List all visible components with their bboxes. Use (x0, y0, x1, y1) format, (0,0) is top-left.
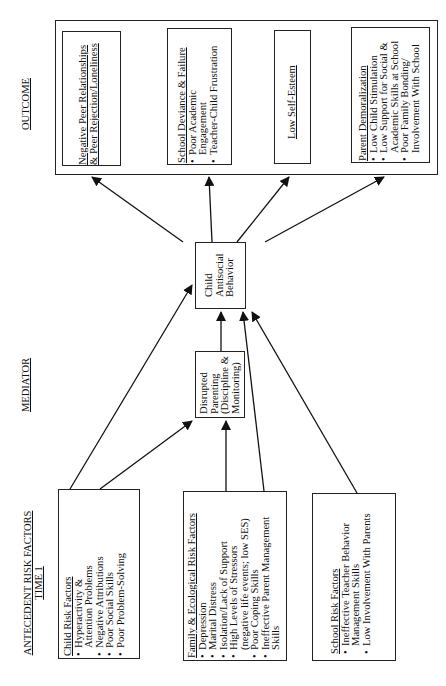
antecedent-label-line2: TIME 1 (33, 508, 44, 658)
outcome-label: OUTCOME (20, 78, 31, 130)
mediator-label: MEDIATOR (20, 358, 31, 412)
parent-item: Poor Family Bonding/ (400, 41, 411, 161)
peer-title-line2: & Peer Rejection/Loneliness (89, 43, 100, 165)
family-risk-item: Marital Distress (208, 513, 219, 658)
outcome-school-box: School Deviance & Failure Poor Academic … (167, 28, 232, 165)
child-risk-item-cont: Attention Problems (84, 553, 95, 656)
arrow-childrisk-to-cab (70, 285, 192, 489)
outcome-esteem-box: Low Self-Esteem (274, 30, 311, 164)
school-deviance-title: School Deviance & Failure (177, 46, 188, 163)
child-risk-item: Poor Social Skills (105, 553, 116, 656)
school-risk-item: Low Involvement With Parents (362, 513, 373, 654)
antecedent-label: ANTECEDENT RISK FACTORS TIME 1 (22, 508, 44, 658)
family-risk-item-cont: Skills (271, 513, 282, 658)
child-risk-box: Child Risk Factors Hyperactivity & Atten… (58, 489, 140, 659)
peer-title-line1: Negative Peer Relationships (78, 43, 89, 165)
arrow-cab-to-parent (265, 177, 384, 242)
cab-line: Child (204, 253, 215, 297)
child-risk-item: Poor Problem-Solving (116, 553, 127, 656)
family-risk-title: Family & Ecological Risk Factors (187, 513, 198, 658)
dp-line: (Discipline & (220, 356, 231, 414)
outcome-parent-box: Parent Demoralization Low Child Stimulat… (351, 27, 430, 163)
child-risk-title: Child Risk Factors (63, 553, 74, 656)
arrow-cab-to-esteem (237, 177, 289, 242)
school-deviance-item-cont: Engagement (198, 46, 209, 163)
arrow-cab-to-peer (92, 177, 183, 242)
family-risk-item: High Levels of Stressors (229, 513, 240, 658)
dp-line: Monitoring) (231, 356, 242, 414)
esteem-title: Low Self-Esteem (287, 65, 298, 139)
outcome-peer-box: Negative Peer Relationships & Peer Rejec… (62, 31, 121, 166)
parent-demoralization-title: Parent Demoralization (358, 41, 369, 161)
dp-line: Disrupted (199, 356, 210, 414)
disrupted-parenting-box: Disrupted Parenting (Discipline & Monito… (195, 351, 245, 418)
arrow-childrisk-to-dp (100, 421, 192, 489)
school-risk-box: School Risk Factors Ineffective Teacher … (312, 493, 396, 661)
school-risk-item-cont: Management Skills (351, 513, 362, 654)
parent-item: Low Support for Social & (379, 41, 390, 161)
antecedent-label-line1: ANTECEDENT RISK FACTORS (22, 508, 33, 658)
school-risk-title: School Risk Factors (330, 513, 341, 654)
cab-line: Behavior (225, 253, 236, 297)
family-risk-box: Family & Ecological Risk Factors Depress… (183, 491, 287, 661)
school-deviance-item: Teacher-Child Frustration (209, 46, 220, 163)
family-risk-item: Poor Coping Skills (250, 513, 261, 658)
parent-item-cont: Involvement With School (411, 41, 422, 161)
arrow-family-to-cab (243, 312, 264, 491)
child-antisocial-box: Child Antisocial Behavior (195, 242, 246, 309)
arrow-schoolrisk-to-cab (252, 312, 357, 493)
arrow-cab-to-school (209, 177, 212, 242)
